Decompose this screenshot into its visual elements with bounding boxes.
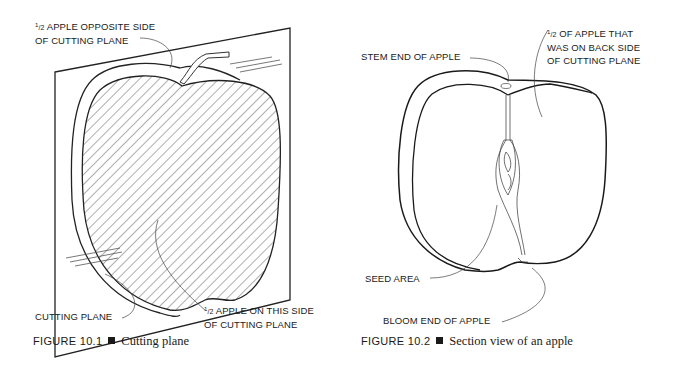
cut-face xyxy=(413,84,508,270)
square-bullet-icon xyxy=(436,337,443,344)
figure-title: Section view of an apple xyxy=(449,334,573,348)
stem-dimple xyxy=(501,84,511,89)
figure-number: FIGURE 10.2 xyxy=(361,335,430,347)
figure-caption: FIGURE 10.1Cutting plane xyxy=(33,334,189,349)
label-back-half: 1/2 OF APPLE THAT WAS ON BACK SIDE OF CU… xyxy=(547,26,640,67)
leader-seed-area xyxy=(430,205,497,278)
sectioned-apple-half xyxy=(82,76,280,310)
core xyxy=(496,95,528,262)
figure-caption: FIGURE 10.2Section view of an apple xyxy=(361,334,573,349)
figure-section-view: STEM END OF APPLE 1/2 OF APPLE THAT WAS … xyxy=(340,0,677,366)
label-stem-end: STEM END OF APPLE xyxy=(361,50,460,63)
label-opposite-half: 1/2 APPLE OPPOSITE SIDE OF CUTTING PLANE xyxy=(35,19,155,47)
leader-bloom-end xyxy=(502,268,545,322)
label-bloom-end: BLOOM END OF APPLE xyxy=(383,314,490,327)
label-cutting-plane: CUTTING PLANE xyxy=(35,310,112,323)
leader-stem-end xyxy=(470,58,508,82)
square-bullet-icon xyxy=(108,337,115,344)
figure-cutting-plane: 1/2 APPLE OPPOSITE SIDE OF CUTTING PLANE… xyxy=(0,0,340,366)
figure-title: Cutting plane xyxy=(121,334,189,348)
label-this-half: 1/2 APPLE ON THIS SIDE OF CUTTING PLANE xyxy=(204,303,314,331)
leader-back-half xyxy=(534,30,548,117)
apple-outline xyxy=(399,71,607,272)
figure-number: FIGURE 10.1 xyxy=(33,335,102,347)
label-seed-area: SEED AREA xyxy=(365,272,420,285)
